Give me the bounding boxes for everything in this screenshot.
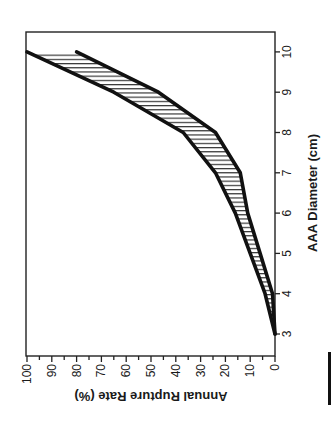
rate-tick-label: 10 <box>243 364 257 378</box>
diameter-tick-label: 9 <box>280 89 294 96</box>
rupture-rate-chart: 345678910 0102030405060708090100 AAA Dia… <box>0 0 331 426</box>
rate-tick-label: 40 <box>169 364 183 378</box>
diameter-tick-label: 4 <box>280 290 294 297</box>
diameter-tick-label: 7 <box>280 169 294 176</box>
rate-tick-label: 30 <box>194 364 208 378</box>
lower-bound-curve <box>77 52 275 334</box>
diameter-tick-label: 5 <box>280 250 294 257</box>
rate-tick-label: 20 <box>218 364 232 378</box>
y-axis-title: Annual Rupture Rate (%) <box>74 389 227 404</box>
rate-tick-label: 80 <box>70 364 84 378</box>
rate-tick-label: 70 <box>94 364 108 378</box>
rate-tick-label: 0 <box>268 364 282 371</box>
rate-tick-label: 100 <box>20 364 34 384</box>
rupture-rate-range-band <box>27 52 275 334</box>
diameter-tick-label: 6 <box>280 209 294 216</box>
diameter-axis-ticks: 345678910 <box>275 45 294 337</box>
rate-axis-ticks: 0102030405060708090100 <box>20 356 282 384</box>
diameter-tick-label: 8 <box>280 129 294 136</box>
rate-tick-label: 50 <box>144 364 158 378</box>
diameter-tick-label: 10 <box>280 45 294 59</box>
diameter-tick-label: 3 <box>280 330 294 337</box>
rate-tick-label: 90 <box>45 364 59 378</box>
x-axis-title: AAA Diameter (cm) <box>305 134 320 252</box>
rate-tick-label: 60 <box>119 364 133 378</box>
